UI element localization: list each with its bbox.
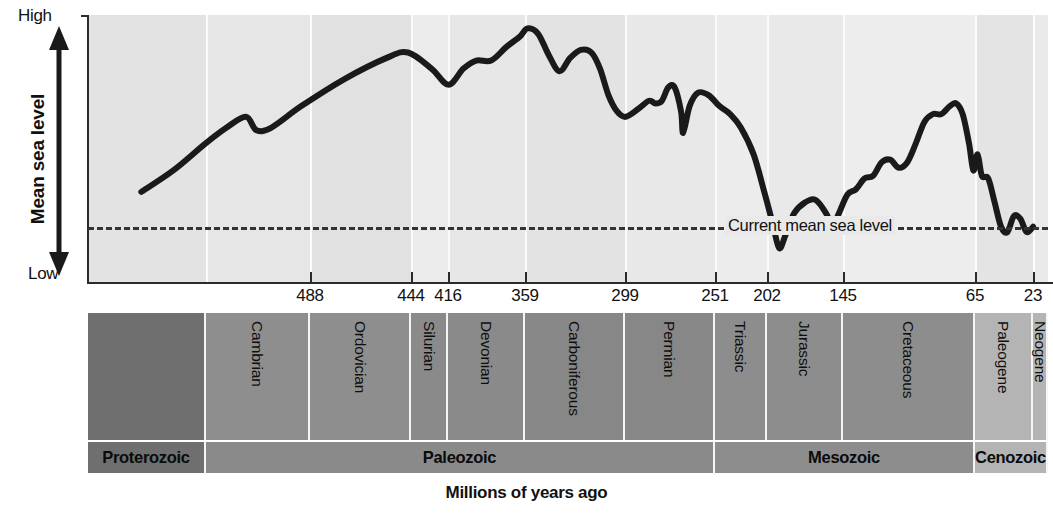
period-cell-jurassic: Jurassic (767, 313, 843, 440)
period-label: Ordovician (351, 321, 369, 393)
period-label: Jurassic (795, 321, 813, 376)
period-cell-paleogene: Paleogene (975, 313, 1033, 440)
era-label: Paleozoic (423, 448, 496, 467)
geological-eras-row: ProterozoicPaleozoicMesozoicCenozoic (88, 442, 1048, 473)
geological-periods-row: CambrianOrdovicianSilurianDevonianCarbon… (88, 313, 1048, 440)
x-axis-tick-label: 251 (701, 286, 728, 306)
period-cell-silurian: Silurian (411, 313, 448, 440)
x-axis-tick-label: 444 (397, 286, 424, 306)
era-label: Mesozoic (808, 448, 880, 467)
x-axis-tick-label: 359 (511, 286, 538, 306)
period-label: Paleogene (994, 321, 1012, 393)
period-label: Devonian (477, 321, 495, 385)
x-axis-tick-label: 202 (753, 286, 780, 306)
era-label: Cenozoic (975, 448, 1046, 467)
period-label: Permian (660, 321, 678, 377)
period-label: Silurian (420, 321, 438, 371)
x-axis-tick-label: 23 (1024, 286, 1042, 306)
sea-level-double-arrow-icon (46, 26, 72, 276)
x-axis-tick (843, 272, 845, 283)
period-label: Cretaceous (899, 321, 917, 398)
x-axis-tick-label: 65 (966, 286, 984, 306)
era-label: Proterozoic (102, 448, 189, 467)
x-axis-tick-label: 145 (829, 286, 856, 306)
sea-level-chart-figure: Mean sea level High Low Current mean sea… (0, 0, 1053, 518)
period-cell-devonian: Devonian (448, 313, 525, 440)
x-axis-tick (1033, 272, 1035, 283)
period-label: Triassic (731, 321, 749, 372)
period-label: Neogene (1031, 321, 1049, 383)
period-cell-unlabeled (88, 313, 206, 440)
period-label: Carboniferous (565, 321, 583, 416)
mean-sea-level-curve (88, 15, 1048, 283)
period-label: Cambrian (248, 321, 266, 387)
x-axis-tick (767, 272, 769, 283)
current-sea-level-label: Current mean sea level (725, 216, 895, 235)
era-cell-proterozoic: Proterozoic (88, 442, 206, 473)
x-axis-tick (715, 272, 717, 283)
era-cell-cenozoic: Cenozoic (975, 442, 1048, 473)
era-cell-mesozoic: Mesozoic (715, 442, 975, 473)
x-axis-tick-label: 416 (434, 286, 461, 306)
x-axis-tick-label: 488 (296, 286, 323, 306)
period-cell-triassic: Triassic (715, 313, 767, 440)
period-cell-ordovician: Ordovician (310, 313, 411, 440)
x-axis-tick (525, 272, 527, 283)
period-cell-permian: Permian (625, 313, 715, 440)
x-axis-tick (448, 272, 450, 283)
x-axis-title: Millions of years ago (0, 483, 1053, 503)
x-axis-tick-label: 299 (611, 286, 638, 306)
x-axis-tick (625, 272, 627, 283)
period-cell-carboniferous: Carboniferous (525, 313, 625, 440)
period-cell-cretaceous: Cretaceous (843, 313, 975, 440)
geological-timescale: CambrianOrdovicianSilurianDevonianCarbon… (88, 313, 1048, 473)
y-axis-high-label: High (18, 6, 52, 26)
current-sea-level-reference-line (88, 227, 1048, 230)
x-axis-tick (310, 272, 312, 283)
period-cell-cambrian: Cambrian (206, 313, 310, 440)
era-cell-paleozoic: Paleozoic (206, 442, 715, 473)
x-axis-tick (975, 272, 977, 283)
period-cell-neogene: Neogene (1033, 313, 1048, 440)
x-axis-tick (411, 272, 413, 283)
